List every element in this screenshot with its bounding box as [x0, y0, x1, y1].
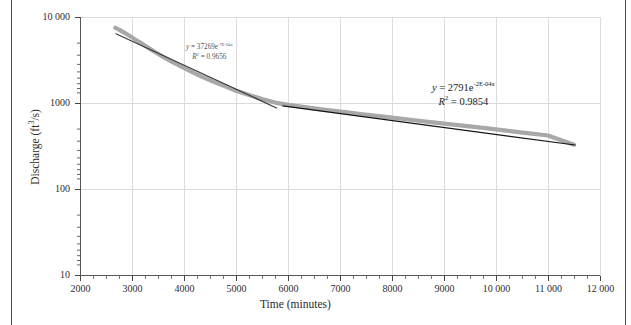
- trendline-2-r2: R2 = 0.9854: [432, 94, 495, 108]
- trendline-1-eq-equals: =: [189, 43, 197, 51]
- trendline-2-eq-coefficient: 2791e: [448, 82, 474, 93]
- trendline-1-equation: y = 37269e-7E-04x: [186, 42, 233, 52]
- trendline-2-equation: y = 2791e-2E-04x: [432, 80, 495, 94]
- discharge-recession-chart: 10 000 1000 100 10 2000 3000 4000 5000 6…: [0, 0, 631, 325]
- trendline-2-eq-exponent: -2E-04x: [474, 80, 495, 87]
- trendline-1-eq-exponent: -7E-04x: [218, 42, 233, 47]
- y-axis-title-text: Discharge (ft: [29, 125, 41, 185]
- trendline-1-r2: R2 = 0.9656: [186, 52, 233, 62]
- y-axis-title-tail: /s): [29, 109, 41, 121]
- trendline-1-r2-value: = 0.9656: [199, 54, 226, 62]
- trendline-2-eq-equals: =: [437, 82, 448, 93]
- plot-canvas: [0, 0, 631, 325]
- y-axis-title: Discharge (ft3/s): [27, 67, 41, 227]
- y-minor-ticks: [77, 43, 80, 265]
- xtick-label-12000: 12 000: [570, 283, 631, 294]
- y-axis-title-superscript: 3: [27, 121, 36, 125]
- trendline-1-eq-coefficient: 37269e: [197, 43, 218, 51]
- trendline-2-r2-value: = 0.9854: [448, 95, 488, 106]
- x-axis-title: Time (minutes): [260, 298, 331, 310]
- trendline-1-annotation: y = 37269e-7E-04x R2 = 0.9656: [186, 42, 233, 63]
- trendline-2-annotation: y = 2791e-2E-04x R2 = 0.9854: [432, 80, 495, 107]
- ytick-label-10: 10: [8, 269, 70, 280]
- ytick-label-10000: 10 000: [8, 11, 70, 22]
